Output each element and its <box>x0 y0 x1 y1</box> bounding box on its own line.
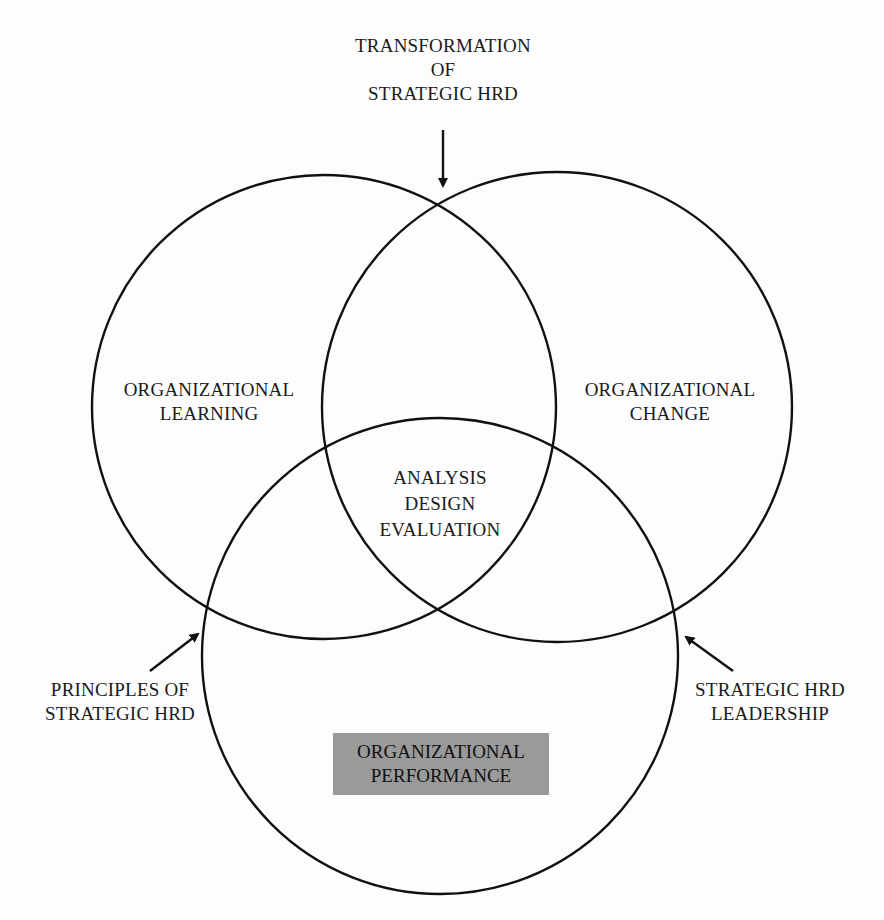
label-line: EVALUATION <box>360 517 520 543</box>
label-line: STRATEGIC HRD <box>343 82 543 106</box>
label-line: PRINCIPLES OF <box>20 678 220 702</box>
label-center-analysis-design-evaluation: ANALYSIS DESIGN EVALUATION <box>360 465 520 543</box>
label-line: CHANGE <box>567 402 773 426</box>
label-line: OF <box>343 58 543 82</box>
label-line: PERFORMANCE <box>371 764 511 788</box>
label-line: TRANSFORMATION <box>343 34 543 58</box>
label-transformation-of-strategic-hrd: TRANSFORMATION OF STRATEGIC HRD <box>343 34 543 106</box>
label-line: ORGANIZATIONAL <box>106 378 312 402</box>
label-line: DESIGN <box>360 491 520 517</box>
label-line: STRATEGIC HRD <box>20 702 220 726</box>
label-strategic-hrd-leadership: STRATEGIC HRD LEADERSHIP <box>670 678 870 726</box>
label-line: ORGANIZATIONAL <box>567 378 773 402</box>
label-line: LEARNING <box>106 402 312 426</box>
label-organizational-learning: ORGANIZATIONAL LEARNING <box>106 378 312 426</box>
label-organizational-performance: ORGANIZATIONAL PERFORMANCE <box>333 733 549 795</box>
arrow-leadership-icon <box>686 637 733 671</box>
label-line: LEADERSHIP <box>670 702 870 726</box>
arrow-principles-icon <box>150 634 198 671</box>
label-principles-of-strategic-hrd: PRINCIPLES OF STRATEGIC HRD <box>20 678 220 726</box>
label-line: ANALYSIS <box>360 465 520 491</box>
label-line: ORGANIZATIONAL <box>357 740 525 764</box>
label-organizational-change: ORGANIZATIONAL CHANGE <box>567 378 773 426</box>
label-line: STRATEGIC HRD <box>670 678 870 702</box>
